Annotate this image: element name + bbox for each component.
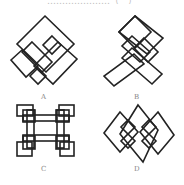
option-a[interactable]: A: [8, 14, 80, 102]
figure-d-icon: [98, 102, 178, 164]
option-label: D: [134, 166, 140, 173]
option-c[interactable]: C: [14, 102, 78, 176]
option-label: B: [134, 94, 139, 101]
option-label: A: [41, 94, 46, 101]
question-title-fragment: …………………（ ）: [0, 0, 184, 4]
figure-c-icon: [14, 102, 78, 160]
option-d[interactable]: D: [98, 102, 178, 176]
option-label: C: [41, 166, 46, 173]
option-b[interactable]: B: [100, 14, 172, 102]
figure-b-icon: [100, 14, 172, 90]
figure-a-icon: [8, 14, 80, 90]
